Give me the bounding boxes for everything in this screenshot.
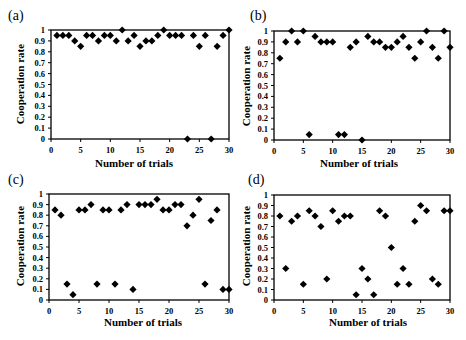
y-tick-label: 0: [264, 295, 268, 305]
data-point-diamond: [323, 275, 330, 282]
data-point-diamond: [294, 212, 301, 219]
y-tick-label: 0.8: [257, 211, 268, 221]
data-point-diamond: [394, 281, 401, 288]
x-tick-label: 20: [387, 306, 396, 316]
data-point-diamond: [417, 202, 424, 209]
data-point-diamond: [370, 291, 377, 298]
y-tick-label: 1: [264, 190, 268, 200]
data-point-diamond: [429, 275, 436, 282]
x-tick-label: 10: [328, 306, 337, 316]
data-point-diamond: [311, 212, 318, 219]
data-point-diamond: [423, 207, 430, 214]
data-point-diamond: [382, 212, 389, 219]
data-point-diamond: [411, 218, 418, 225]
x-tick-label: 15: [358, 306, 367, 316]
data-point-diamond: [358, 265, 365, 272]
data-point-diamond: [335, 218, 342, 225]
y-tick-label: 0.9: [257, 201, 268, 211]
y-tick-label: 0.6: [257, 232, 268, 242]
scatter-plot: 00.10.20.30.40.50.60.70.80.9105101520253…: [0, 0, 466, 340]
data-point-diamond: [405, 281, 412, 288]
chart-panel-d: (d) Cooperation rate Number of trials 00…: [0, 0, 466, 340]
data-point-diamond: [399, 265, 406, 272]
x-tick-label: 25: [416, 306, 425, 316]
data-point-diamond: [376, 207, 383, 214]
data-point-diamond: [300, 281, 307, 288]
x-tick-label: 0: [272, 306, 276, 316]
data-point-diamond: [347, 212, 354, 219]
x-tick-label: 30: [446, 306, 455, 316]
data-point-diamond: [329, 207, 336, 214]
data-point-diamond: [446, 207, 453, 214]
y-tick-label: 0.3: [257, 264, 268, 274]
y-tick-label: 0.1: [257, 285, 268, 295]
data-point-diamond: [364, 275, 371, 282]
x-tick-label: 5: [301, 306, 305, 316]
data-point-diamond: [282, 265, 289, 272]
data-point-diamond: [353, 291, 360, 298]
y-tick-label: 0.2: [257, 274, 268, 284]
data-point-diamond: [388, 244, 395, 251]
data-point-diamond: [276, 212, 283, 219]
y-tick-label: 0.4: [257, 253, 268, 263]
data-point-diamond: [288, 218, 295, 225]
data-point-diamond: [306, 207, 313, 214]
data-point-diamond: [435, 281, 442, 288]
data-point-diamond: [317, 223, 324, 230]
y-tick-label: 0.5: [257, 243, 268, 253]
y-tick-label: 0.7: [257, 222, 268, 232]
